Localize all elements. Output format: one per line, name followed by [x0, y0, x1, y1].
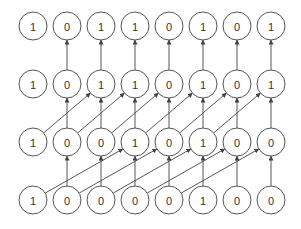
diagonal-arrow [79, 149, 157, 193]
node-row-input-7: 0 [257, 186, 285, 214]
node-value: 0 [268, 195, 274, 207]
node-row-input-5: 1 [189, 186, 217, 214]
node-value: 1 [30, 21, 36, 33]
node-value: 0 [98, 137, 104, 149]
node-value: 1 [98, 79, 104, 91]
node-row-level-1-2: 0 [87, 128, 115, 156]
node-value: 0 [64, 137, 70, 149]
node-row-input-2: 0 [87, 186, 115, 214]
nodes-layer: 10110101101101011001010010000100 [19, 12, 285, 214]
node-row-output-6: 0 [223, 12, 251, 40]
node-row-output-5: 1 [189, 12, 217, 40]
node-value: 1 [98, 21, 104, 33]
node-value: 1 [200, 79, 206, 91]
node-value: 1 [30, 195, 36, 207]
node-row-input-6: 0 [223, 186, 251, 214]
node-value: 0 [234, 195, 240, 207]
prefix-network-diagram: 10110101101101011001010010000100 [0, 0, 301, 229]
node-row-output-3: 1 [121, 12, 149, 40]
node-row-level-1-0: 1 [19, 128, 47, 156]
node-row-level-2-3: 1 [121, 70, 149, 98]
node-value: 0 [64, 195, 70, 207]
node-value: 1 [268, 21, 274, 33]
node-value: 0 [268, 137, 274, 149]
node-value: 0 [166, 21, 172, 33]
node-row-level-2-6: 0 [223, 70, 251, 98]
node-row-level-2-4: 0 [155, 70, 183, 98]
node-row-level-1-3: 1 [121, 128, 149, 156]
node-value: 0 [132, 195, 138, 207]
node-row-level-1-4: 0 [155, 128, 183, 156]
diagonal-arrow [113, 149, 191, 193]
node-value: 0 [64, 79, 70, 91]
node-row-input-1: 0 [53, 186, 81, 214]
node-value: 0 [166, 195, 172, 207]
edges-layer [44, 40, 271, 193]
node-row-output-0: 1 [19, 12, 47, 40]
node-value: 1 [132, 137, 138, 149]
node-value: 1 [30, 79, 36, 91]
node-row-output-7: 1 [257, 12, 285, 40]
node-value: 1 [30, 137, 36, 149]
node-row-output-1: 0 [53, 12, 81, 40]
node-row-output-2: 1 [87, 12, 115, 40]
node-value: 0 [98, 195, 104, 207]
node-value: 1 [268, 79, 274, 91]
node-row-level-2-0: 1 [19, 70, 47, 98]
node-value: 0 [166, 79, 172, 91]
node-row-level-2-7: 1 [257, 70, 285, 98]
node-value: 1 [200, 21, 206, 33]
node-value: 1 [200, 195, 206, 207]
node-value: 0 [64, 21, 70, 33]
node-value: 0 [234, 79, 240, 91]
node-row-level-1-1: 0 [53, 128, 81, 156]
node-row-level-2-5: 1 [189, 70, 217, 98]
diagonal-arrow [45, 149, 123, 193]
node-row-input-0: 1 [19, 186, 47, 214]
diagonal-arrow [147, 149, 225, 193]
diagonal-arrow [181, 149, 259, 193]
node-row-level-2-1: 0 [53, 70, 81, 98]
node-row-level-1-7: 0 [257, 128, 285, 156]
node-value: 0 [234, 137, 240, 149]
node-row-level-1-5: 1 [189, 128, 217, 156]
node-row-level-1-6: 0 [223, 128, 251, 156]
node-row-input-3: 0 [121, 186, 149, 214]
node-value: 1 [200, 137, 206, 149]
node-row-input-4: 0 [155, 186, 183, 214]
node-value: 0 [166, 137, 172, 149]
node-value: 0 [234, 21, 240, 33]
node-row-output-4: 0 [155, 12, 183, 40]
node-row-level-2-2: 1 [87, 70, 115, 98]
node-value: 1 [132, 79, 138, 91]
node-value: 1 [132, 21, 138, 33]
